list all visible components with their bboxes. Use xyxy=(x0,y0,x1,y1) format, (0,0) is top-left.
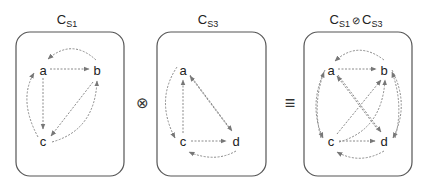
title-main: C xyxy=(198,12,207,27)
edge-composed-c-b-curve xyxy=(339,80,385,142)
edge-cs1-c-b xyxy=(52,81,97,142)
edge-composed-a-c xyxy=(316,70,325,138)
panel-title-cs3: CS3 xyxy=(198,12,218,29)
title-main: C xyxy=(330,12,339,27)
edge-cs3-d-a xyxy=(190,76,229,128)
title-main: C xyxy=(57,12,66,27)
panel-box-cs1 xyxy=(16,32,124,176)
edge-composed-b-a xyxy=(335,50,384,61)
tensor-operator-icon: ⊗ xyxy=(136,94,149,112)
edge-cs1-b-c xyxy=(51,82,93,136)
title-sub: S3 xyxy=(371,19,382,29)
edge-cs3-a-d xyxy=(190,75,232,131)
node-cs1-c: c xyxy=(40,134,47,149)
edge-cs3-a-c xyxy=(165,67,177,138)
node-composed-d: d xyxy=(380,134,387,149)
node-cs3-c: c xyxy=(180,134,187,149)
title-sub: S3 xyxy=(207,19,218,29)
node-cs1-b: b xyxy=(93,63,100,78)
title-sub: S1 xyxy=(66,19,77,29)
edge-composed-d-c xyxy=(337,151,384,158)
edge-cs1-b-a xyxy=(48,49,96,60)
equiv-operator-icon: ≡ xyxy=(285,93,296,114)
node-cs3-d: d xyxy=(232,134,239,149)
panel-title-composed: CS1⊘CS3 xyxy=(330,12,383,29)
title-main: C xyxy=(362,12,371,27)
edge-cs3-d-c xyxy=(189,151,236,157)
panel-title-cs1: CS1 xyxy=(57,12,77,29)
edge-composed-a-d xyxy=(338,75,381,132)
node-composed-a: a xyxy=(327,63,334,78)
node-composed-c: c xyxy=(328,134,335,149)
compose-operator-icon: ⊘ xyxy=(352,15,360,26)
edge-composed-c-a xyxy=(317,72,324,138)
edge-composed-b-d xyxy=(392,70,401,138)
edge-composed-d-b xyxy=(392,72,399,138)
node-cs3-a: a xyxy=(179,63,186,78)
title-sub: S1 xyxy=(339,19,350,29)
edge-cs1-c-a xyxy=(27,73,38,137)
node-composed-b: b xyxy=(380,63,387,78)
node-cs1-a: a xyxy=(39,63,46,78)
edge-composed-d-a xyxy=(337,76,378,130)
